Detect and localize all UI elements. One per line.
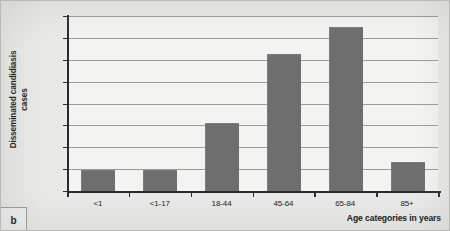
gridline: [67, 60, 438, 61]
x-category-label: <1: [67, 199, 129, 208]
x-category-label: <1-17: [129, 199, 191, 208]
x-category-label: 85+: [376, 199, 438, 208]
x-category-label: 18-44: [191, 199, 253, 208]
x-tick-mark: [129, 191, 131, 197]
y-axis-line: [67, 15, 69, 192]
x-tick-mark: [376, 191, 378, 197]
x-tick-mark: [253, 191, 255, 197]
y-axis-title-line-1: Disseminated candidiasis: [10, 50, 19, 148]
bar-85: [391, 162, 425, 191]
bar-45-64: [267, 54, 301, 191]
gridline: [67, 38, 438, 39]
gridline: [67, 82, 438, 83]
x-tick-mark: [438, 191, 440, 197]
gridline: [67, 147, 438, 148]
panel-label-b: b: [1, 207, 27, 231]
x-axis-title: Age categories in years: [151, 213, 441, 223]
gridline: [67, 16, 438, 17]
bar-1-17: [143, 170, 177, 191]
gridline: [67, 104, 438, 105]
bar-1: [81, 170, 115, 191]
figure-panel-b: Disseminated candidiasis cases 0.0%5.0%1…: [0, 0, 450, 231]
x-category-label: 45-64: [253, 199, 315, 208]
plot-area: 0.0%5.0%10.0%15.0%20.0%25.0%30.0%35.0%40…: [67, 16, 438, 191]
y-axis-title: Disseminated candidiasis cases: [3, 9, 37, 189]
bar-65-84: [329, 27, 363, 191]
x-tick-mark: [314, 191, 316, 197]
gridline: [67, 169, 438, 170]
x-tick-mark: [191, 191, 193, 197]
x-category-label: 65-84: [314, 199, 376, 208]
x-tick-mark: [67, 191, 69, 197]
gridline: [67, 125, 438, 126]
y-axis-title-line-2: cases: [20, 88, 29, 110]
x-axis-line: [67, 191, 441, 193]
bar-18-44: [205, 123, 239, 191]
